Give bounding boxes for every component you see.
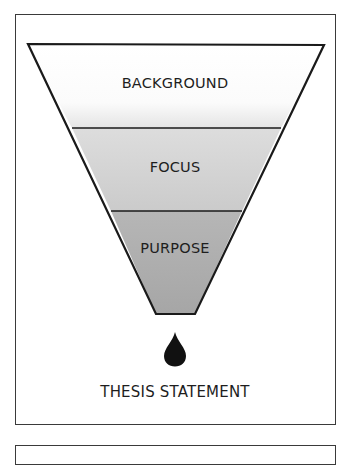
output-label-thesis-statement: THESIS STATEMENT — [0, 383, 350, 401]
drop-icon — [164, 332, 186, 367]
layer-label-purpose: PURPOSE — [0, 240, 350, 256]
layer-label-focus: FOCUS — [0, 159, 350, 175]
layer-label-background: BACKGROUND — [0, 75, 350, 91]
next-panel-frame — [15, 445, 336, 465]
